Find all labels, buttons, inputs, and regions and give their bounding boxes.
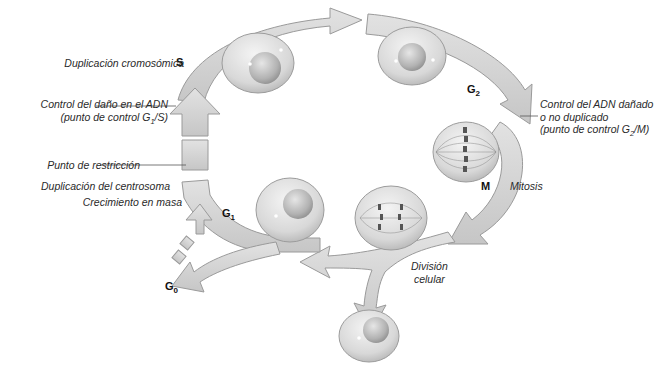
phase-g0-label: G0 xyxy=(165,280,178,295)
label-duplicacion-cromosomica: Duplicación cromosómica xyxy=(64,57,184,70)
cell-s-phase xyxy=(222,33,294,93)
g0-entry-arrow xyxy=(172,204,212,264)
cell-anaphase xyxy=(355,186,427,250)
label-crecimiento-masa: Crecimiento en masa xyxy=(83,196,182,209)
phase-g1-label: G1 xyxy=(222,207,235,222)
label-division-celular: División celular xyxy=(411,260,448,285)
phase-g2-label: G2 xyxy=(467,83,480,98)
cell-cycle-diagram: S G2 M G1 G0 Duplicación cromosómica Con… xyxy=(0,0,662,370)
label-control-adn-danado: Control del ADN dañado o no duplicado (p… xyxy=(540,98,653,141)
label-punto-restriccion: Punto de restricción xyxy=(47,159,140,172)
phase-m-label: M xyxy=(481,180,490,192)
cell-g2-phase xyxy=(378,27,446,85)
label-control-dano-adn: Control del daño en el ADN (punto de con… xyxy=(41,98,168,128)
cell-g1-phase xyxy=(256,178,324,242)
label-duplicacion-centrosoma: Duplicación del centrosoma xyxy=(41,180,170,193)
cell-daughter xyxy=(339,310,399,362)
label-mitosis: Mitosis xyxy=(510,180,543,193)
cell-metaphase xyxy=(433,122,499,182)
